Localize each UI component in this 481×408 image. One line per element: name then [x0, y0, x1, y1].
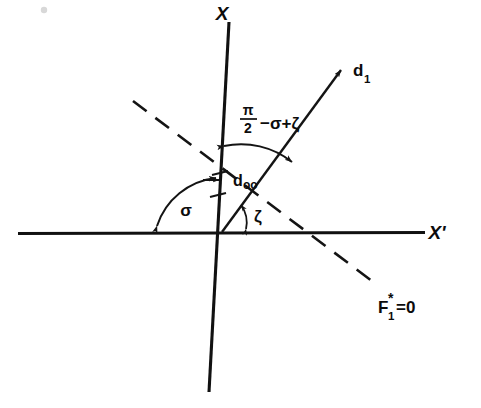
compound-angle-rest: −σ+ζ: [260, 114, 299, 133]
scan-speck: [41, 7, 47, 13]
doo-label: d: [233, 172, 243, 189]
f1-star-superscript: *: [388, 290, 394, 306]
f1-star-subscript: 1: [388, 310, 395, 322]
compound-angle-denominator: 2: [244, 120, 252, 136]
x-prime-axis-line: [18, 233, 425, 234]
doo-subscript: oo: [243, 178, 258, 192]
f1-star-label: F: [378, 298, 388, 317]
zeta-angle-label: ζ: [254, 207, 262, 226]
vector-diagram: X X' d 1 d oo σ ζ π 2 −σ+ζ F 1 * =0: [0, 0, 481, 408]
compound-angle-numerator: π: [243, 102, 254, 118]
x-axis-label: X: [215, 3, 230, 24]
d1-ray-label: d: [353, 61, 363, 80]
x-prime-axis-label: X': [427, 222, 447, 243]
f1-star-equals-zero: =0: [396, 298, 415, 317]
sigma-angle-label: σ: [180, 201, 192, 220]
diagram-canvas: X X' d 1 d oo σ ζ π 2 −σ+ζ F 1 * =0: [0, 0, 481, 408]
background: [0, 0, 481, 408]
d1-ray-subscript: 1: [364, 73, 371, 85]
